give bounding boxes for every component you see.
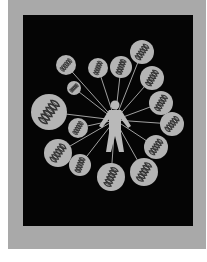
dna-circle (69, 154, 91, 176)
dna-circle (110, 56, 132, 78)
dna-circle (97, 163, 125, 191)
dna-circle (68, 118, 88, 138)
dna-circle (160, 112, 184, 136)
dna-circle (88, 58, 108, 78)
dna-circle (130, 158, 158, 186)
dna-circle (130, 40, 154, 64)
dna-circle (44, 139, 72, 167)
dna-circle (67, 81, 81, 95)
dna-circle (144, 135, 168, 159)
dna-circle (56, 55, 76, 75)
dna-circle (149, 91, 173, 115)
dna-circle (140, 66, 164, 90)
artwork-canvas (0, 0, 207, 262)
dna-circle (31, 94, 67, 130)
